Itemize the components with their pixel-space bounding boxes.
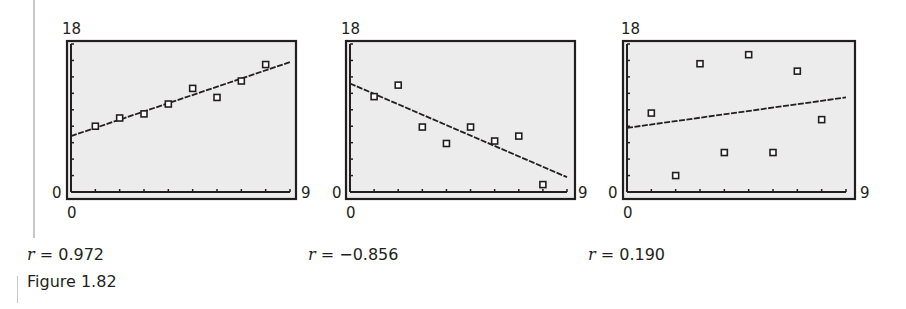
r-symbol: r xyxy=(27,245,35,264)
scatter-plot-3: 18 0 0 9 xyxy=(0,0,300,230)
correlation-label-1: r = 0.972 xyxy=(27,245,104,264)
margin-rule-caption xyxy=(17,276,18,303)
r-value: = 0.190 xyxy=(601,245,665,264)
figure-caption: Figure 1.82 xyxy=(27,272,117,291)
plot-area xyxy=(0,0,906,230)
r-value: = −0.856 xyxy=(321,245,399,264)
r-value: = 0.972 xyxy=(40,245,104,264)
r-symbol: r xyxy=(308,245,316,264)
r-symbol: r xyxy=(588,245,596,264)
correlation-label-2: r = −0.856 xyxy=(308,245,398,264)
correlation-label-3: r = 0.190 xyxy=(588,245,665,264)
